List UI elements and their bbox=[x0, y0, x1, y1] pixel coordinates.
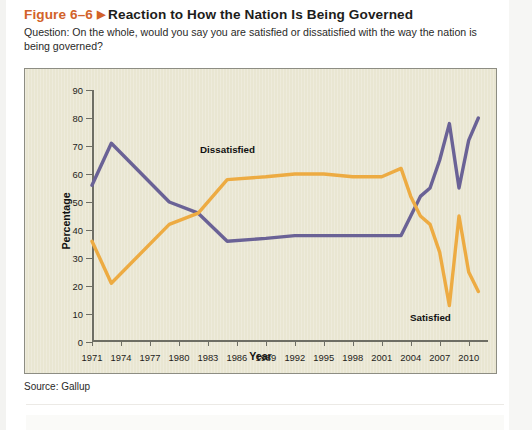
y-tick-label: 10 bbox=[73, 309, 83, 320]
x-tick-label: 1998 bbox=[342, 352, 363, 363]
series-label-satisfied: Satisfied bbox=[410, 312, 451, 323]
series-label-dissatisfied: Dissatisfied bbox=[200, 144, 255, 155]
source-note: Source: Gallup bbox=[24, 381, 90, 392]
y-axis-title: Percentage bbox=[60, 192, 72, 249]
x-tick-label: 2001 bbox=[371, 352, 392, 363]
y-tick-label: 80 bbox=[73, 113, 83, 124]
y-tick-label: 90 bbox=[73, 85, 83, 96]
y-tick-label: 40 bbox=[73, 225, 83, 236]
y-tick-label: 60 bbox=[73, 169, 83, 180]
x-tick-label: 1989 bbox=[255, 352, 276, 363]
x-tick-label: 2010 bbox=[458, 352, 479, 363]
x-tick-label: 1980 bbox=[168, 352, 189, 363]
chart-panel: Percentage Year 0102030405060708090 1971… bbox=[24, 68, 497, 374]
figure-question: Question: On the whole, would you say yo… bbox=[24, 26, 479, 53]
x-tick-label: 2004 bbox=[400, 352, 421, 363]
y-tick-label: 20 bbox=[73, 281, 83, 292]
page-divider bbox=[26, 404, 504, 405]
y-tick-label: 0 bbox=[78, 337, 83, 348]
line-series-dissatisfied bbox=[92, 118, 478, 241]
x-tick-label: 1986 bbox=[226, 352, 247, 363]
x-tick-label: 2007 bbox=[429, 352, 450, 363]
x-tick-label: 1995 bbox=[313, 352, 334, 363]
x-tick-label: 1983 bbox=[197, 352, 218, 363]
figure-number: Figure 6–6 bbox=[24, 7, 93, 22]
plot-area: 0102030405060708090 19711974197719801983… bbox=[92, 90, 488, 342]
page-edge-left bbox=[0, 0, 6, 430]
figure-heading: Figure 6–6▶Reaction to How the Nation Is… bbox=[24, 6, 494, 23]
line-series-group bbox=[92, 90, 488, 342]
figure-page: Figure 6–6▶Reaction to How the Nation Is… bbox=[0, 0, 532, 430]
page-bottom-margin bbox=[26, 415, 504, 430]
x-tick-label: 1971 bbox=[82, 352, 103, 363]
y-tick-label: 50 bbox=[73, 197, 83, 208]
triangle-marker-icon: ▶ bbox=[93, 8, 108, 20]
x-tick-label: 1992 bbox=[284, 352, 305, 363]
page-edge-right bbox=[509, 0, 532, 430]
x-tick-label: 1977 bbox=[140, 352, 161, 363]
y-tick-label: 30 bbox=[73, 253, 83, 264]
x-tick-label: 1974 bbox=[111, 352, 132, 363]
page-title: Reaction to How the Nation Is Being Gove… bbox=[108, 7, 413, 22]
y-tick-label: 70 bbox=[73, 141, 83, 152]
